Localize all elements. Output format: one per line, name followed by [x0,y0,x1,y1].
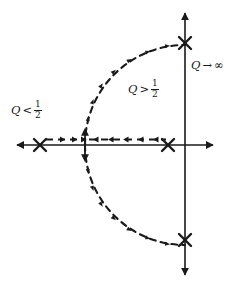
annotation-left-fraction: 1 2 [34,100,42,121]
axes-group [17,13,213,275]
root-locus-canvas [0,0,246,292]
real-axis-right-branch [89,137,166,143]
annotation-left-numerator: 1 [34,100,42,109]
arrow-right-icon: → [202,60,212,72]
root-locus-figure: Q < 1 2 Q > 1 2 Q → ∞ [0,0,246,292]
annotation-center-numerator: 1 [151,79,159,88]
annotation-q-to-infinity: Q → ∞ [191,60,224,72]
annotation-center-variable: Q [128,84,137,96]
annotation-center-operator: > [139,84,149,96]
annotation-left-variable: Q [11,105,20,117]
lower-locus-arc [85,145,185,245]
annotation-q-greater-than-half: Q > 1 2 [128,79,159,100]
infinity-symbol: ∞ [214,60,224,72]
annotation-left-denominator: 2 [34,110,42,121]
annotation-q-less-than-half: Q < 1 2 [11,100,42,121]
annotation-right-variable: Q [191,60,200,72]
annotation-center-fraction: 1 2 [151,79,159,100]
real-axis-left-branch [46,137,86,143]
annotation-center-denominator: 2 [151,89,159,100]
lower-arc-direction-arrows [86,169,171,247]
annotation-left-operator: < [22,105,32,117]
